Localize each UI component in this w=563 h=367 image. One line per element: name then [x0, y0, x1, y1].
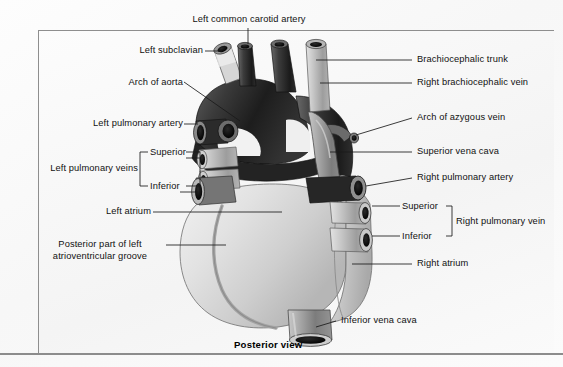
anatomy-figure: Left common carotid artery Left subclavi… — [0, 0, 563, 367]
label-brachiocephalic-trunk: Brachiocephalic trunk — [417, 54, 508, 65]
label-superior-vena-cava: Superior vena cava — [417, 146, 499, 157]
label-left-common-carotid-artery: Left common carotid artery — [188, 14, 310, 25]
figure-bottom-rule — [0, 353, 563, 355]
label-left-pulmonary-veins: Left pulmonary veins — [14, 163, 138, 174]
label-right-pulmonary-artery: Right pulmonary artery — [417, 172, 513, 183]
label-arch-of-azygous-vein: Arch of azygous vein — [417, 112, 505, 123]
label-right-pulmonary-vein-inferior: Inferior — [402, 231, 432, 242]
figure-caption: Posterior view — [234, 339, 302, 350]
label-left-atrium: Left atrium — [58, 206, 151, 217]
label-inferior-vena-cava: Inferior vena cava — [341, 315, 417, 326]
label-left-pulmonary-artery: Left pulmonary artery — [48, 118, 183, 129]
label-posterior-part-of-left-atrioventricular-groove: Posterior part of left atrioventricular … — [36, 239, 164, 262]
label-right-pulmonary-vein: Right pulmonary vein — [456, 216, 545, 227]
label-arch-of-aorta: Arch of aorta — [75, 77, 183, 88]
label-right-pulmonary-vein-superior: Superior — [402, 201, 438, 212]
label-left-subclavian: Left subclavian — [85, 45, 203, 56]
label-left-pulmonary-vein-inferior: Inferior — [150, 181, 180, 192]
label-left-pulmonary-vein-superior: Superior — [150, 147, 186, 158]
label-right-atrium: Right atrium — [417, 258, 468, 269]
label-right-brachiocephalic-vein: Right brachiocephalic vein — [417, 77, 528, 88]
